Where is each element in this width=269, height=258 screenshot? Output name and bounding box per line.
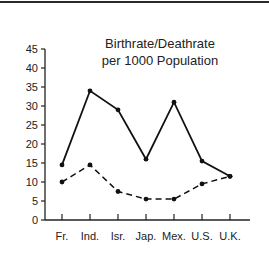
birthrate-point	[144, 157, 149, 162]
line-chart: 051015202530354045Fr.Ind.Isr.Jap.Mex.U.S…	[0, 0, 269, 258]
y-tick-label: 25	[26, 119, 38, 131]
y-tick-label: 20	[26, 138, 38, 150]
deathrate-line	[62, 165, 230, 199]
deathrate-point	[172, 197, 177, 202]
y-tick-label: 45	[26, 43, 38, 55]
x-tick-label: Mex.	[162, 230, 186, 242]
birthrate-point	[116, 107, 121, 112]
x-tick-label: Jap.	[136, 230, 157, 242]
birthrate-point	[88, 88, 93, 93]
deathrate-point	[60, 180, 65, 185]
deathrate-point	[88, 163, 93, 168]
y-tick-label: 35	[26, 81, 38, 93]
deathrate-point	[228, 174, 233, 179]
y-tick-label: 40	[26, 62, 38, 74]
birthrate-point	[200, 159, 205, 164]
x-tick-label: Fr.	[56, 230, 69, 242]
y-tick-label: 0	[32, 214, 38, 226]
y-tick-label: 30	[26, 100, 38, 112]
y-tick-label: 5	[32, 195, 38, 207]
x-tick-label: U.K.	[219, 230, 240, 242]
deathrate-point	[116, 189, 121, 194]
birthrate-point	[60, 163, 65, 168]
deathrate-point	[144, 197, 149, 202]
y-tick-label: 15	[26, 157, 38, 169]
y-tick-label: 10	[26, 176, 38, 188]
birthrate-line	[62, 91, 230, 177]
deathrate-point	[200, 182, 205, 187]
birthrate-point	[172, 100, 177, 105]
x-tick-label: U.S.	[191, 230, 212, 242]
x-tick-label: Isr.	[111, 230, 126, 242]
x-tick-label: Ind.	[81, 230, 99, 242]
